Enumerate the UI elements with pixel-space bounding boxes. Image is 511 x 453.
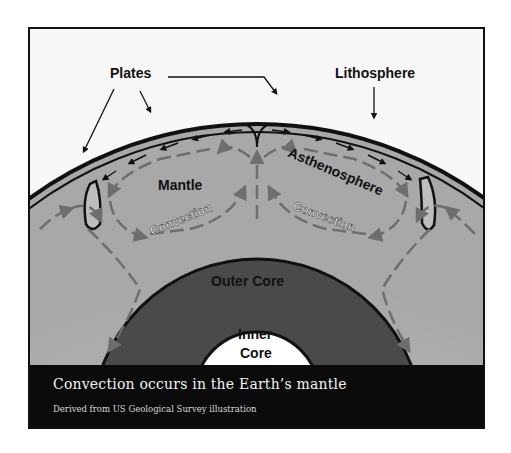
- figure-frame: Plates Lithosphere Asthenosphere Mantle …: [28, 27, 485, 429]
- label-plates: Plates: [110, 65, 151, 81]
- label-mantle: Mantle: [158, 177, 202, 193]
- caption-band: Convection occurs in the Earth’s mantle …: [30, 365, 483, 427]
- label-inner-core-2: Core: [240, 345, 272, 361]
- label-outer-core: Outer Core: [211, 273, 284, 289]
- label-lithosphere: Lithosphere: [335, 65, 415, 81]
- label-inner-core-1: Inner: [238, 326, 272, 342]
- caption-title: Convection occurs in the Earth’s mantle: [53, 376, 347, 392]
- caption-subtitle: Derived from US Geological Survey illust…: [53, 404, 257, 414]
